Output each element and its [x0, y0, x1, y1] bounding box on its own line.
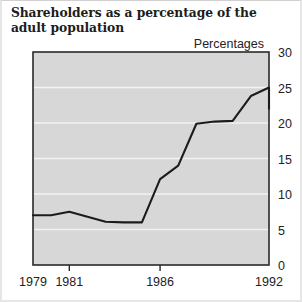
line-chart-plot: 051015202530 1979198119861992: [2, 1, 302, 302]
x-axis-tick-label: 1979: [19, 275, 47, 289]
y-axis-tick-label: 10: [278, 188, 292, 202]
y-axis-tick-labels: 051015202530: [278, 46, 292, 273]
x-axis-tick-label: 1986: [146, 275, 174, 289]
y-axis-tick-label: 30: [278, 46, 292, 60]
y-axis-tick-label: 5: [278, 224, 285, 238]
y-axis-tick-label: 25: [278, 82, 292, 96]
plot-area: 051015202530 1979198119861992: [19, 46, 292, 289]
x-axis-tick-labels: 1979198119861992: [19, 275, 283, 289]
y-axis-tick-label: 20: [278, 117, 292, 131]
x-axis-tick-label: 1981: [55, 275, 83, 289]
y-axis-tick-label: 15: [278, 153, 292, 167]
y-axis-tick-label: 0: [278, 259, 285, 273]
x-axis-tick-label: 1992: [255, 275, 283, 289]
chart-figure: Shareholders as a percentage of the adul…: [0, 0, 302, 302]
x-axis-ticks: [69, 265, 160, 271]
